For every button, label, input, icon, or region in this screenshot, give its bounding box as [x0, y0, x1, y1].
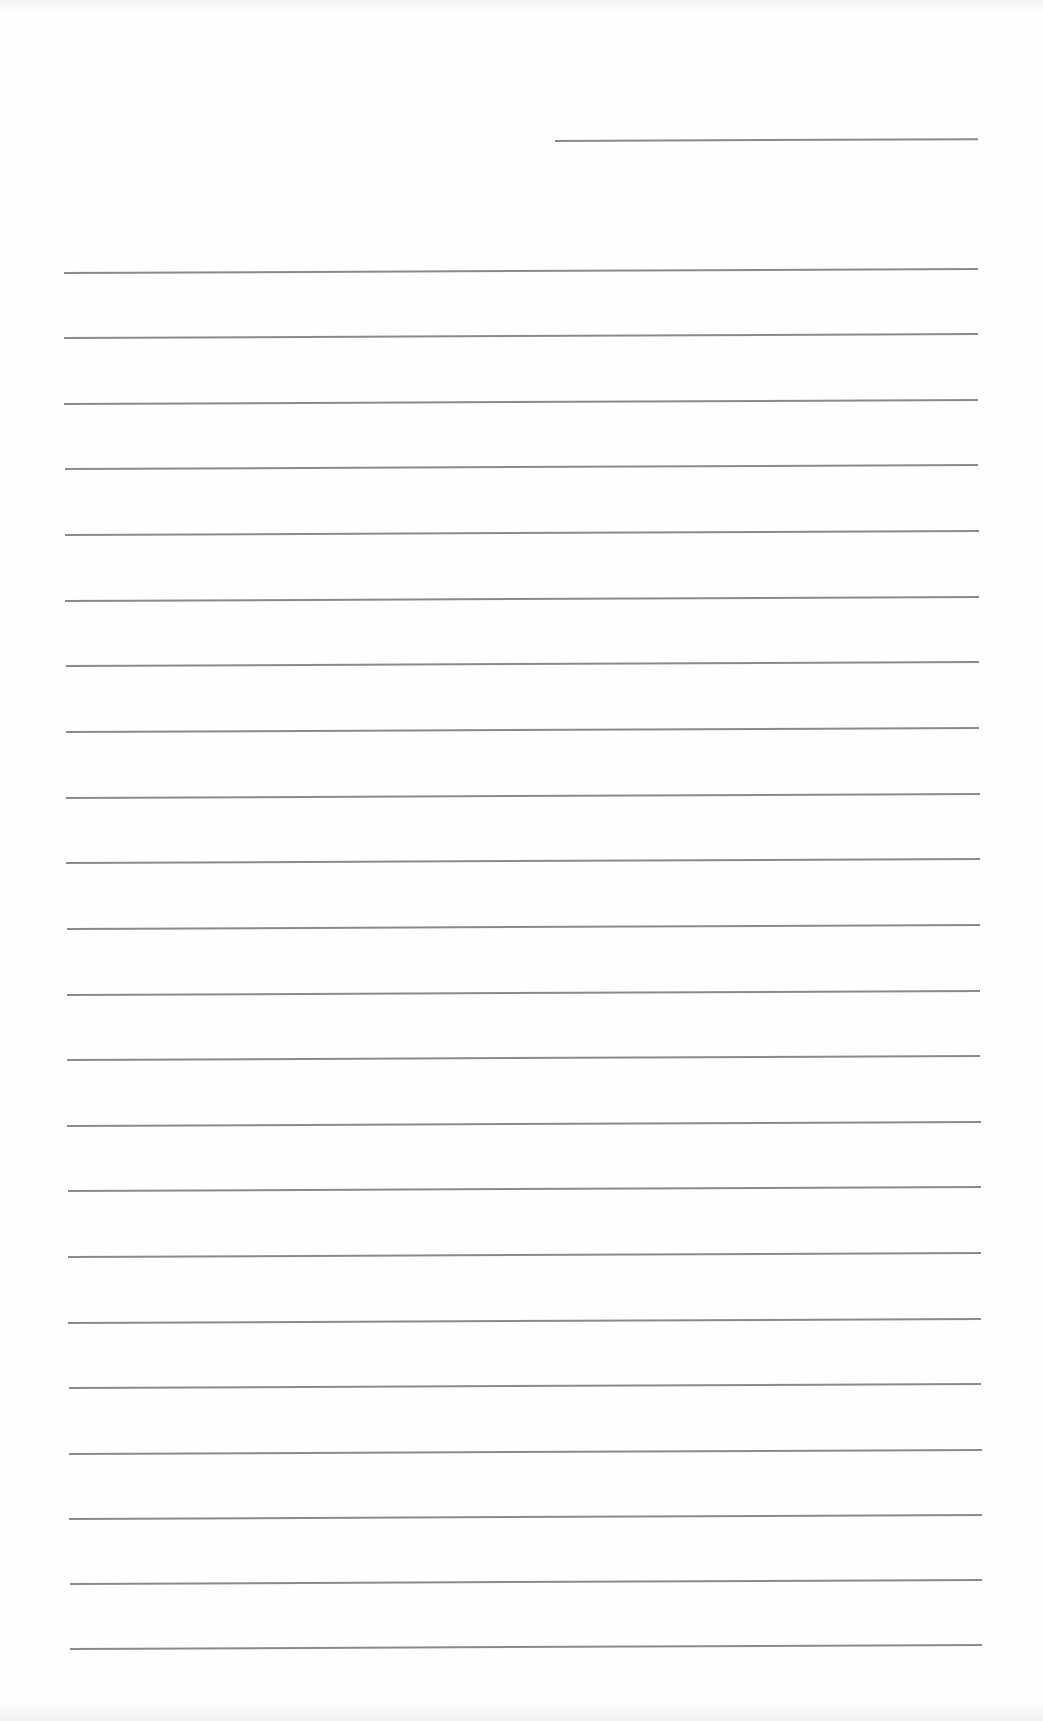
ruled-line	[69, 1383, 981, 1388]
ruled-line	[67, 990, 980, 995]
ruled-line	[68, 1252, 981, 1257]
ruled-line	[66, 793, 980, 798]
ruled-line	[64, 399, 978, 404]
ruled-line	[67, 1121, 981, 1126]
ruled-line	[65, 464, 978, 469]
ruled-line	[69, 1449, 982, 1454]
lined-paper-page	[0, 0, 1043, 1721]
ruled-line	[68, 1318, 981, 1323]
ruled-line	[70, 1644, 982, 1649]
scan-edge-bottom	[0, 1701, 1043, 1721]
ruled-line	[64, 333, 978, 338]
ruled-line	[67, 924, 980, 929]
ruled-line	[67, 1055, 980, 1060]
ruled-line	[69, 1514, 982, 1519]
ruled-line	[68, 1186, 981, 1191]
header-rule-line	[555, 138, 978, 141]
ruled-line	[66, 661, 979, 666]
ruled-line	[70, 1579, 982, 1584]
ruled-line	[65, 530, 979, 535]
ruled-line	[66, 727, 979, 732]
ruled-line	[66, 858, 980, 863]
scan-edge-top	[0, 0, 1043, 14]
ruled-line	[65, 596, 979, 601]
ruled-line	[64, 268, 978, 273]
